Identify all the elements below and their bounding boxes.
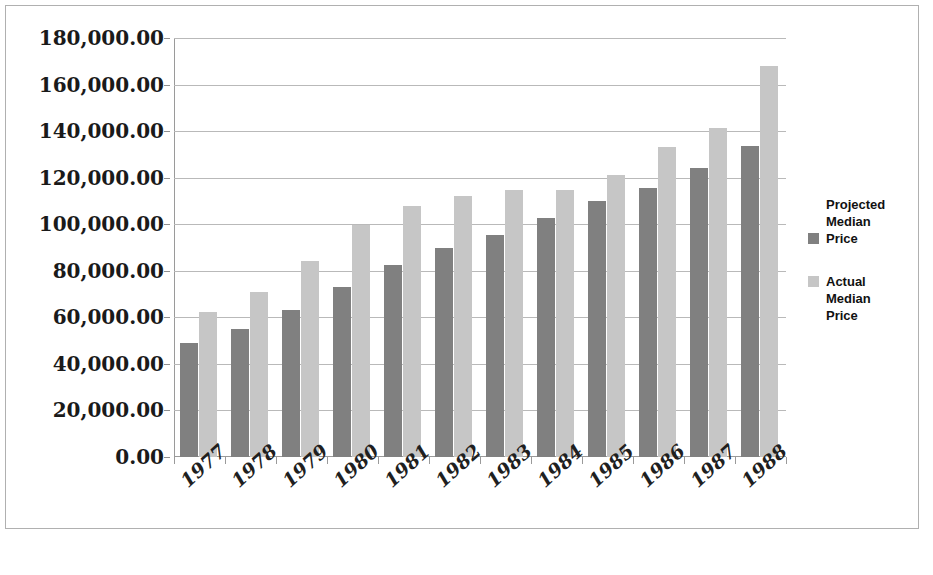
- bar-group: 1988: [735, 38, 786, 457]
- x-axis-tick-mark: [735, 457, 736, 464]
- y-axis-tick-label: 120,000.00: [39, 168, 164, 188]
- bar-projected-median-price[interactable]: [690, 168, 708, 457]
- bar-group: 1980: [327, 38, 378, 457]
- x-axis-tick-mark: [378, 457, 379, 464]
- bar-actual-median-price[interactable]: [658, 147, 676, 457]
- bar-group: 1979: [276, 38, 327, 457]
- legend-label: ProjectedMedianPrice: [826, 196, 918, 247]
- y-axis-tick-mark: [164, 178, 170, 179]
- y-axis-tick-label: 0.00: [115, 447, 164, 467]
- legend-item-projected-median-price[interactable]: ProjectedMedianPrice: [826, 196, 918, 247]
- y-axis-tick-mark: [164, 85, 170, 86]
- x-axis-tick-mark: [225, 457, 226, 464]
- y-axis-tick-label: 60,000.00: [53, 307, 164, 327]
- bar-actual-median-price[interactable]: [760, 66, 778, 457]
- y-axis-tick-label: 20,000.00: [53, 400, 164, 420]
- y-axis-tick-label: 180,000.00: [39, 28, 164, 48]
- legend-label: ActualMedianPrice: [826, 273, 918, 324]
- x-axis-tick-mark: [276, 457, 277, 464]
- legend-label-line: Actual: [826, 273, 918, 290]
- x-axis-tick-mark: [174, 457, 175, 464]
- y-axis-tick-mark: [164, 317, 170, 318]
- chart-legend: ProjectedMedianPriceActualMedianPrice: [826, 196, 918, 350]
- bar-group: 1977: [174, 38, 225, 457]
- bar-actual-median-price[interactable]: [607, 175, 625, 457]
- bar-group: 1986: [633, 38, 684, 457]
- y-axis-tick-label: 40,000.00: [53, 354, 164, 374]
- bar-projected-median-price[interactable]: [639, 188, 657, 457]
- bar-actual-median-price[interactable]: [709, 128, 727, 457]
- x-axis-tick-mark: [327, 457, 328, 464]
- legend-swatch: [808, 233, 819, 244]
- x-axis-tick-mark: [633, 457, 634, 464]
- bar-actual-median-price[interactable]: [199, 312, 217, 457]
- bar-projected-median-price[interactable]: [282, 310, 300, 457]
- bar-group: 1985: [582, 38, 633, 457]
- x-axis-tick-mark: [531, 457, 532, 464]
- y-axis-tick-mark: [164, 131, 170, 132]
- y-axis-tick-label: 80,000.00: [53, 261, 164, 281]
- legend-label-line: Median: [826, 290, 918, 307]
- y-axis-tick-mark: [164, 364, 170, 365]
- legend-label-line: Median: [826, 213, 918, 230]
- x-axis-tick-mark: [429, 457, 430, 464]
- x-axis-tick-mark: [582, 457, 583, 464]
- x-axis-tick-mark: [480, 457, 481, 464]
- bar-projected-median-price[interactable]: [435, 248, 453, 458]
- bar-actual-median-price[interactable]: [301, 261, 319, 457]
- legend-label-line: Price: [826, 307, 918, 324]
- y-axis-tick-mark: [164, 271, 170, 272]
- y-axis-tick-label: 100,000.00: [39, 214, 164, 234]
- bar-group: 1987: [684, 38, 735, 457]
- bar-group: 1983: [480, 38, 531, 457]
- bar-actual-median-price[interactable]: [403, 206, 421, 457]
- bar-projected-median-price[interactable]: [384, 265, 402, 457]
- bar-projected-median-price[interactable]: [588, 201, 606, 457]
- y-axis-tick-mark: [164, 410, 170, 411]
- y-axis-tick-mark: [164, 224, 170, 225]
- bar-projected-median-price[interactable]: [741, 146, 759, 457]
- bar-actual-median-price[interactable]: [250, 292, 268, 457]
- bar-group: 1982: [429, 38, 480, 457]
- y-axis-tick-mark: [164, 38, 170, 39]
- bar-actual-median-price[interactable]: [505, 190, 523, 457]
- chart-frame: 180,000.00160,000.00140,000.00120,000.00…: [5, 5, 919, 529]
- y-axis-tick-mark: [164, 457, 170, 458]
- bar-projected-median-price[interactable]: [333, 287, 351, 457]
- y-axis-tick-label: 140,000.00: [39, 121, 164, 141]
- legend-label-line: Price: [826, 230, 918, 247]
- legend-item-actual-median-price[interactable]: ActualMedianPrice: [826, 273, 918, 324]
- bar-actual-median-price[interactable]: [556, 190, 574, 457]
- legend-label-line: Projected: [826, 196, 918, 213]
- x-axis-tick-mark: [684, 457, 685, 464]
- y-axis-labels: 180,000.00160,000.00140,000.00120,000.00…: [6, 38, 164, 457]
- bar-projected-median-price[interactable]: [537, 218, 555, 457]
- bar-group: 1978: [225, 38, 276, 457]
- bar-actual-median-price[interactable]: [454, 196, 472, 457]
- legend-swatch: [808, 276, 819, 287]
- bar-group: 1981: [378, 38, 429, 457]
- bar-projected-median-price[interactable]: [231, 329, 249, 457]
- plot-area: 1977197819791980198119821983198419851986…: [174, 38, 786, 457]
- bar-actual-median-price[interactable]: [352, 225, 370, 457]
- bar-projected-median-price[interactable]: [486, 235, 504, 457]
- x-axis-tick-mark: [786, 457, 787, 464]
- y-axis-tick-label: 160,000.00: [39, 75, 164, 95]
- bar-projected-median-price[interactable]: [180, 343, 198, 457]
- bar-group: 1984: [531, 38, 582, 457]
